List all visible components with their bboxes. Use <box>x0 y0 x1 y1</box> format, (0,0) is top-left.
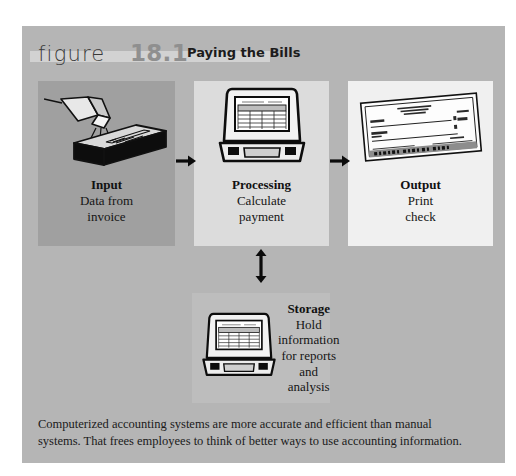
panel-output-line1: Print <box>348 193 493 209</box>
panel-processing-heading: Processing <box>194 177 329 193</box>
diagram-stage: Input Data from invoice <box>22 81 505 406</box>
panel-storage-line3: for reports <box>278 348 339 364</box>
figure-title: Paying the Bills <box>187 45 300 60</box>
barcode-scanner-icon <box>38 85 175 173</box>
panel-output-caption: Output Print check <box>348 177 493 225</box>
bank-check-icon <box>348 85 493 173</box>
figure-container: figure 18.1 Paying the Bills <box>22 26 505 463</box>
figure-header: figure 18.1 Paying the Bills <box>22 38 505 72</box>
figure-number: 18.1 <box>130 40 188 66</box>
panel-input-line1: Data from <box>38 193 175 209</box>
arrow-processing-to-output <box>330 154 350 172</box>
panel-input: Input Data from invoice <box>38 81 175 246</box>
panel-storage-line2: information <box>278 332 339 348</box>
panel-input-caption: Input Data from invoice <box>38 177 175 225</box>
arrow-input-to-processing <box>176 154 196 172</box>
figure-label-word: figure <box>38 42 105 66</box>
panel-output-line2: check <box>348 209 493 225</box>
panel-processing-caption: Processing Calculate payment <box>194 177 329 225</box>
panel-output: Output Print check <box>348 81 493 246</box>
figure-caption-line2: systems. That frees employees to think o… <box>38 433 490 450</box>
panel-processing-line2: payment <box>194 209 329 225</box>
panel-storage-line1: Hold <box>278 317 339 333</box>
panel-storage-caption: Storage Hold information for reports and… <box>278 301 341 395</box>
desktop-computer-icon <box>200 309 278 387</box>
panel-output-heading: Output <box>348 177 493 193</box>
panel-input-line2: invoice <box>38 209 175 225</box>
figure-caption: Computerized accounting systems are more… <box>38 416 490 450</box>
figure-caption-line1: Computerized accounting systems are more… <box>38 416 490 433</box>
arrow-processing-storage <box>254 249 268 287</box>
panel-storage-heading: Storage <box>278 301 339 317</box>
panel-processing: Processing Calculate payment <box>194 81 329 246</box>
panel-storage: Storage Hold information for reports and… <box>192 293 330 403</box>
panel-processing-line1: Calculate <box>194 193 329 209</box>
desktop-computer-icon <box>194 85 329 173</box>
panel-input-heading: Input <box>38 177 175 193</box>
panel-storage-line4: and analysis <box>278 364 339 395</box>
